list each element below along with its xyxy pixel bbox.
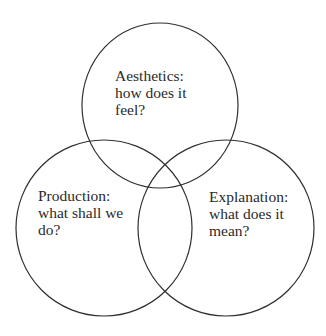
label-explanation-line-2: what does it xyxy=(209,205,288,222)
label-aesthetics-line-2: how does it xyxy=(115,84,186,101)
label-production: Production: what shall we do? xyxy=(38,187,123,238)
label-production-line-2: what shall we xyxy=(38,204,123,221)
label-production-line-1: Production: xyxy=(38,187,123,204)
venn-diagram xyxy=(0,0,326,336)
label-aesthetics-line-1: Aesthetics: xyxy=(115,67,186,84)
label-explanation-line-3: mean? xyxy=(209,222,288,239)
label-aesthetics: Aesthetics: how does it feel? xyxy=(115,67,186,118)
label-aesthetics-line-3: feel? xyxy=(115,101,186,118)
label-production-line-3: do? xyxy=(38,221,123,238)
label-explanation: Explanation: what does it mean? xyxy=(209,188,288,239)
label-explanation-line-1: Explanation: xyxy=(209,188,288,205)
